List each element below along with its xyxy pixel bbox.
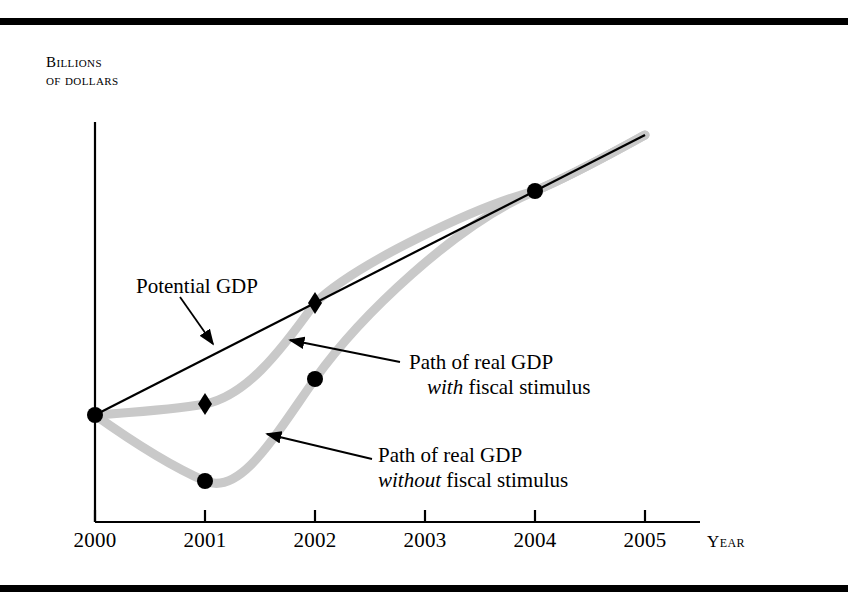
label-without-emphasis: without <box>378 468 441 492</box>
marker-circle-2001 <box>197 473 213 489</box>
label-potential-gdp: Potential GDP <box>136 274 258 299</box>
marker-circle-2002 <box>307 371 323 387</box>
gdp-fiscal-stimulus-figure: Billions of dollars 20002001200220032004… <box>0 0 848 611</box>
x-tick-label-2001: 2001 <box>170 528 240 553</box>
label-with-rest: fiscal stimulus <box>463 375 590 399</box>
label-with-stimulus-line1: Path of real GDP <box>409 350 553 374</box>
x-tick-label-2000: 2000 <box>60 528 130 553</box>
x-axis-ticks <box>95 510 645 522</box>
y-axis-title-line2: of dollars <box>46 72 119 90</box>
x-tick-label-2004: 2004 <box>500 528 570 553</box>
marker-circle-2000 <box>87 407 103 423</box>
without-stimulus-arrow <box>267 434 372 459</box>
y-axis-title-line1: Billions <box>46 54 102 70</box>
y-axis-title: Billions of dollars <box>46 54 119 89</box>
chart-canvas <box>0 0 848 611</box>
x-tick-label-2003: 2003 <box>390 528 460 553</box>
marker-circle-2004 <box>527 183 543 199</box>
label-without-stimulus: Path of real GDP without fiscal stimulus <box>378 443 568 493</box>
marker-diamond-2001 <box>198 393 212 415</box>
label-without-stimulus-line1: Path of real GDP <box>378 443 522 467</box>
potential-gdp-arrow <box>180 297 213 344</box>
label-without-rest: fiscal stimulus <box>441 468 568 492</box>
x-tick-label-2002: 2002 <box>280 528 350 553</box>
label-with-stimulus-line2: with fiscal stimulus <box>409 375 590 400</box>
label-without-stimulus-line2: without fiscal stimulus <box>378 468 568 493</box>
x-axis-title: Year <box>707 532 745 552</box>
x-tick-label-2005: 2005 <box>610 528 680 553</box>
curve-without-stimulus <box>95 135 645 483</box>
label-with-emphasis: with <box>427 375 463 399</box>
label-with-stimulus: Path of real GDP with fiscal stimulus <box>409 350 590 400</box>
